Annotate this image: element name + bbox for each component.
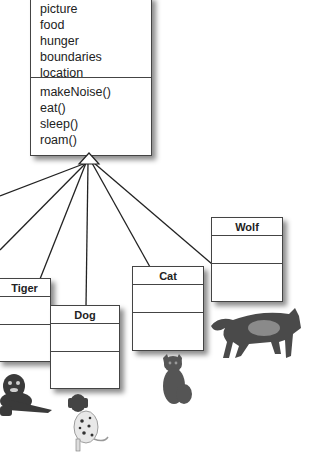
section-divider: [212, 263, 282, 264]
class-name: Wolf: [212, 221, 282, 233]
dalmatian-dog-image: [62, 393, 114, 455]
dog-class-box: Dog: [50, 305, 120, 389]
section-divider: [0, 324, 50, 325]
tiger-image: [0, 368, 55, 420]
section-divider: [51, 323, 119, 324]
wolf-class-box: Wolf: [211, 217, 283, 302]
tiger-class-box: Tiger: [0, 278, 51, 362]
section-divider: [0, 296, 50, 297]
cat-class-box: Cat: [132, 266, 204, 351]
wolf-image: [209, 306, 304, 364]
section-divider: [212, 235, 282, 236]
section-divider: [51, 351, 119, 352]
section-divider: [133, 284, 203, 285]
tabby-cat-image: [159, 354, 195, 408]
class-name: Dog: [51, 309, 119, 321]
class-name: Tiger: [0, 282, 50, 294]
section-divider: [133, 312, 203, 313]
class-name: Cat: [133, 270, 203, 282]
